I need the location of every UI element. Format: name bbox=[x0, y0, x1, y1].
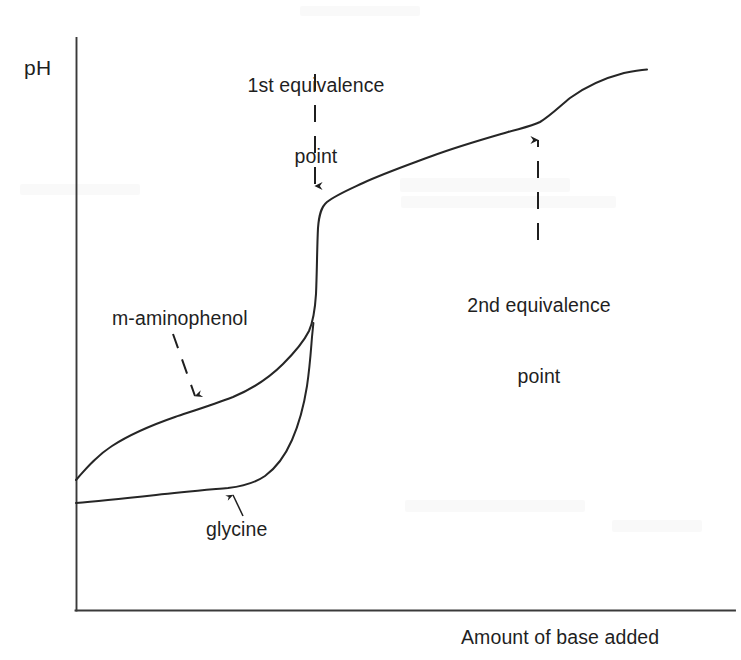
x-axis-label: Amount of base added bbox=[461, 626, 659, 650]
annotation-label-1st-equivalence-point: 1st equivalence point bbox=[232, 26, 400, 216]
aminophenol-arrow-shaft bbox=[173, 334, 195, 396]
curve-glycine bbox=[76, 323, 313, 503]
annotation-label-glycine: glycine bbox=[206, 518, 267, 542]
annotation-aminophenol-arrow bbox=[173, 334, 195, 396]
annotation-glycine-arrow bbox=[233, 495, 243, 516]
y-axis-label: pH bbox=[24, 55, 51, 81]
eq1-line-2: point bbox=[232, 145, 400, 169]
eq1-line-1: 1st equivalence bbox=[232, 74, 400, 98]
annotation-label-2nd-equivalence-point: 2nd equivalence point bbox=[455, 246, 623, 436]
glycine-arrow-shaft bbox=[233, 495, 243, 516]
eq2-line-2: point bbox=[455, 365, 623, 389]
eq2-line-1: 2nd equivalence bbox=[455, 294, 623, 318]
annotation-label-m-aminophenol: m-aminophenol bbox=[112, 307, 248, 331]
titration-figure: pH Amount of base added 1st equivalence … bbox=[0, 0, 741, 660]
